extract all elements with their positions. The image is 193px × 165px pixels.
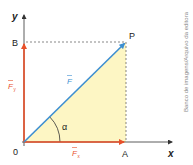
svg-text:y: y — [14, 87, 17, 92]
svg-text:x: x — [78, 154, 81, 159]
vector-fy-label: F y — [8, 81, 17, 93]
image-credit: Banco de imagens/Arquivo da editora — [183, 12, 189, 112]
svg-text:F: F — [67, 77, 73, 86]
y-axis-label: y — [11, 11, 18, 22]
vector-diagram: y x 0 B P A α F F y F x — [0, 0, 193, 165]
x-axis-label: x — [167, 148, 174, 159]
point-a-label: A — [122, 149, 128, 159]
vector-fx-label: F x — [72, 148, 81, 160]
point-p-label: P — [129, 31, 135, 41]
point-b-label: B — [12, 38, 18, 48]
origin-label: 0 — [13, 147, 18, 157]
angle-label: α — [62, 122, 67, 132]
vector-f-label: F — [67, 76, 73, 87]
